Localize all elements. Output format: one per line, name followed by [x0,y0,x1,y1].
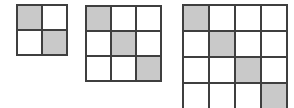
grid-cell [236,32,260,56]
grid-cell-shaded [137,57,160,80]
grid-cell-shaded [87,7,110,30]
grid-cell [210,6,234,30]
grid-cell-shaded [184,6,208,30]
grid-cell [87,57,110,80]
grid-cell [43,6,66,29]
grid-cell [137,32,160,55]
grid-cell [262,58,286,82]
grid-cell-shaded [262,84,286,108]
grid-cell-shaded [210,32,234,56]
grid-4x4 [182,4,288,108]
grid-cell-shaded [18,6,41,29]
grid-cell [236,6,260,30]
grid-cell [184,32,208,56]
grid-2x2 [16,4,68,56]
grid-cell [184,84,208,108]
grid-cell [137,7,160,30]
grid-cell [184,58,208,82]
grid-cell [210,84,234,108]
grid-cell [112,7,135,30]
grid-cell-shaded [43,31,66,54]
grid-cell [262,32,286,56]
grid-cell [210,58,234,82]
grid-cell [112,57,135,80]
grid-cell [262,6,286,30]
grid-3x3 [85,5,162,82]
grid-cell [87,32,110,55]
grid-cell [18,31,41,54]
grid-cell [236,84,260,108]
grid-cell-shaded [112,32,135,55]
pattern-sequence-figure [0,0,294,108]
grid-cell-shaded [236,58,260,82]
